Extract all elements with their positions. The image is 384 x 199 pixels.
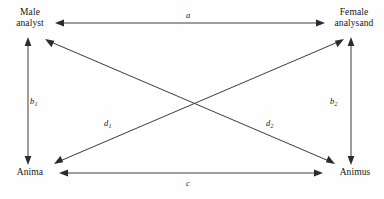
edge-d2-line (51, 42, 329, 161)
edge-label-b2: b2 (330, 96, 337, 106)
edge-d2 (45, 39, 335, 164)
node-anima-line1: Anima (6, 167, 54, 178)
edge-d1-arrowhead-top-right (335, 39, 344, 47)
node-male-analyst-line1: Male (6, 7, 54, 18)
edge-d2-arrowhead-bottom-right (326, 156, 335, 164)
edge-label-b2-text: b (330, 96, 334, 106)
node-female-analysand-line2: analysand (326, 18, 382, 29)
edge-label-d2-text: d (266, 118, 270, 128)
edge-d1-line (60, 42, 338, 161)
edge-d2-arrowhead-top-left (45, 39, 54, 47)
edge-a (55, 20, 325, 27)
edge-label-a: a (186, 10, 190, 20)
edge-c-arrowhead-left (59, 170, 68, 177)
edge-label-d1-text: d (104, 118, 108, 128)
edge-c-arrowhead-right (314, 170, 323, 177)
edge-label-b1: b1 (30, 96, 37, 106)
edge-lines-layer (0, 0, 384, 199)
node-female-analysand-line1: Female (326, 7, 382, 18)
edge-label-b1-text: b (30, 96, 34, 106)
edge-label-c: c (186, 178, 190, 188)
edge-a-arrowhead-right (316, 20, 325, 27)
node-male-analyst: Male analyst (6, 7, 54, 29)
node-male-analyst-line2: analyst (6, 18, 54, 29)
node-animus-line1: Animus (330, 167, 380, 178)
edge-c (59, 170, 323, 177)
node-anima: Anima (6, 167, 54, 178)
edge-b2 (348, 37, 355, 165)
edge-label-d1: d1 (104, 118, 111, 128)
edge-a-arrowhead-left (55, 20, 64, 27)
edge-label-a-text: a (186, 10, 190, 20)
edge-label-d1-sub: 1 (109, 123, 112, 129)
edge-label-b1-sub: 1 (35, 101, 38, 107)
edge-label-b2-sub: 2 (335, 101, 338, 107)
edge-label-d2: d2 (266, 118, 273, 128)
edge-b1-arrowhead-top (25, 37, 32, 46)
edge-b2-arrowhead-top (348, 37, 355, 46)
node-female-analysand: Female analysand (326, 7, 382, 29)
diagram-canvas: Male analyst Female analysand Anima Anim… (0, 0, 384, 199)
edge-label-c-text: c (186, 178, 190, 188)
edge-d1 (54, 39, 344, 164)
edge-b2-arrowhead-bottom (348, 156, 355, 165)
edge-b1-arrowhead-bottom (25, 156, 32, 165)
edge-d1-arrowhead-bottom-left (54, 156, 63, 164)
edge-label-d2-sub: 2 (271, 123, 274, 129)
node-animus: Animus (330, 167, 380, 178)
